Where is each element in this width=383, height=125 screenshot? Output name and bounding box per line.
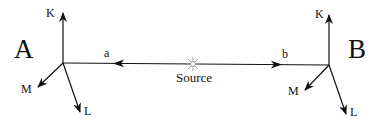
axis-m-label-a: M (21, 83, 32, 95)
path-a-label: a (104, 47, 109, 59)
axis-k-label-a: K (46, 7, 55, 19)
axis-l-arrow-a (63, 63, 80, 112)
axis-m-label-b: M (288, 85, 299, 97)
axis-l-label-a: L (84, 105, 91, 117)
observer-a-axes (38, 13, 80, 112)
axis-l-arrow-b (329, 65, 346, 114)
path-b-label: b (282, 48, 288, 60)
observer-a-label: A (14, 36, 34, 63)
diagram-lines (0, 0, 383, 125)
source-label: Source (176, 71, 212, 84)
axis-l-label-b: L (350, 106, 357, 118)
axis-m-arrow-a (38, 63, 63, 87)
axis-m-arrow-b (305, 65, 329, 90)
entanglement-diagram: A K M L B K M L a b Source (0, 0, 383, 125)
observer-b-label: B (348, 36, 366, 63)
axis-k-label-b: K (315, 8, 324, 20)
star-burst-icon (186, 57, 200, 71)
